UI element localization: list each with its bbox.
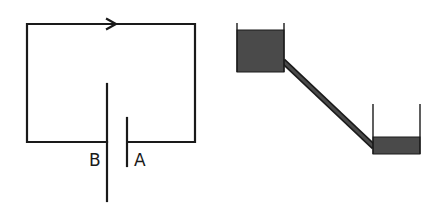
circuit: [27, 19, 195, 201]
terminal-label-a: A: [134, 150, 146, 170]
circuit-wire-left: [27, 24, 195, 142]
diagram-canvas: B A: [0, 0, 441, 213]
upper-container-water: [237, 30, 284, 72]
connecting-pipe-fill: [283, 61, 374, 147]
terminal-label-b: B: [89, 150, 101, 170]
water-analogy: [237, 23, 420, 154]
lower-container-water: [373, 137, 420, 154]
